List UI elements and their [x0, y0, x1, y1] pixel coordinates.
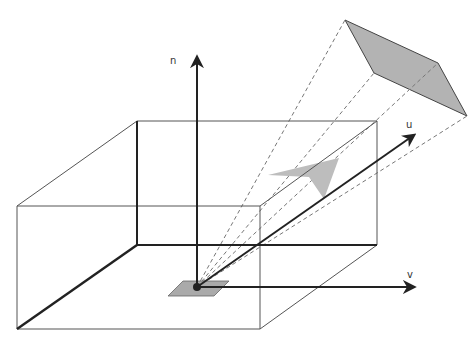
- axis-v-label: v: [407, 269, 413, 280]
- axis-n-label: n: [170, 55, 176, 66]
- axis-u-label: u: [406, 119, 412, 130]
- far-parallelogram: [345, 20, 467, 116]
- axis-u: [197, 135, 414, 287]
- projection-diagram: n u v: [0, 0, 475, 344]
- origin-point: [193, 283, 201, 291]
